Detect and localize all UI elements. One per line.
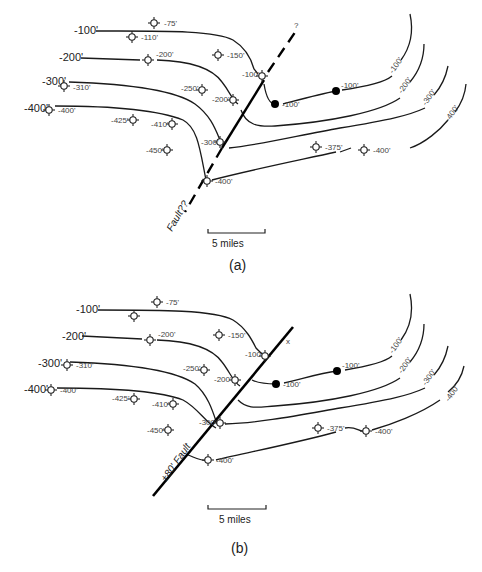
- panel-a: ? Fault?? -100' -200' -300' -400' -100' …: [24, 14, 466, 273]
- well-a-label: -75': [164, 19, 178, 28]
- fault-a-label: Fault??: [164, 198, 190, 233]
- dry-hole-b-label: -100': [283, 380, 301, 389]
- contour-a-right-label-300: -300': [420, 87, 438, 107]
- contour-a-left-label-100: -100': [74, 24, 98, 36]
- well-symbol-icon: [126, 31, 138, 43]
- contour-b-right-label-400: -400': [443, 383, 461, 403]
- contour-b-400-west: [57, 388, 216, 428]
- contour-b-left-label-300: -300': [38, 357, 62, 369]
- well-symbol-icon: [127, 114, 139, 126]
- well-symbol-icon: [202, 454, 214, 466]
- well-symbol-icon: [61, 359, 73, 371]
- scale-bar-b: [208, 505, 266, 509]
- dry-hole-dot-icon: [332, 87, 340, 95]
- fault-a-end-marker: ?: [294, 21, 299, 30]
- well-a-label: -100': [242, 70, 260, 79]
- well-symbol-icon: [144, 334, 156, 346]
- well-a-label: -450': [146, 146, 164, 155]
- fault-b-end-marker: x: [286, 337, 290, 346]
- panel-a-caption: (a): [229, 257, 246, 273]
- well-symbol-icon: [128, 310, 140, 322]
- contour-b-left-label-200: -200': [62, 330, 86, 342]
- well-b-label: -400': [216, 456, 234, 465]
- contour-b-left-label-100: -100': [76, 303, 100, 315]
- well-b-label: -400': [375, 427, 393, 436]
- well-symbol-icon: [142, 54, 154, 66]
- fault-a-dashed-segment-ne: [268, 28, 298, 72]
- well-symbol-icon: [312, 422, 324, 434]
- well-symbol-icon: [360, 425, 372, 437]
- well-symbol-icon: [128, 393, 140, 405]
- well-symbol-icon: [213, 329, 225, 341]
- dry-hole-a-label: -100': [282, 100, 300, 109]
- well-b-label: -100': [245, 350, 263, 359]
- well-a-label: -150': [227, 51, 245, 60]
- structure-contour-figure: ? Fault?? -100' -200' -300' -400' -100' …: [0, 0, 482, 572]
- dry-hole-dot-icon: [272, 380, 280, 388]
- well-a-label: -400': [58, 106, 76, 115]
- well-symbol-icon: [151, 296, 163, 308]
- dry-hole-a-label: -100': [341, 81, 359, 90]
- well-b-label: -200': [158, 330, 176, 339]
- well-symbol-icon: [212, 49, 224, 61]
- well-a-label: -400': [373, 146, 391, 155]
- contour-a-400-west: [55, 106, 206, 180]
- well-b-label: -425': [112, 394, 130, 403]
- well-b-label: -200': [214, 375, 232, 384]
- well-a-label: -200': [212, 95, 230, 104]
- scale-bar-a: [208, 229, 265, 233]
- well-b-label: -250': [183, 364, 201, 373]
- well-a-label: -310': [73, 83, 91, 92]
- well-symbol-icon: [310, 141, 322, 153]
- well-b-label: -310': [76, 361, 94, 370]
- well-a-label: -375': [325, 143, 343, 152]
- fault-b-label: ±80' Fault: [159, 440, 194, 483]
- panel-b: x ±80' Fault -100' -200' -300' -400' -10…: [24, 294, 464, 556]
- well-a-label: -200': [156, 50, 174, 59]
- well-b-label: -75': [166, 298, 180, 307]
- panel-b-caption: (b): [231, 540, 248, 556]
- contour-b-100-east: [252, 294, 411, 384]
- well-b-label: -410': [152, 400, 170, 409]
- well-symbol-icon: [358, 144, 370, 156]
- contour-b-right-label-300: -300': [420, 367, 438, 387]
- well-a-label: -425': [111, 116, 129, 125]
- contour-b-left-label-400: -400': [24, 383, 48, 395]
- well-b-label: -300': [199, 418, 217, 427]
- well-b-label: -150': [228, 331, 246, 340]
- scale-label-b: 5 miles: [219, 514, 251, 525]
- dry-hole-dot-icon: [333, 367, 341, 375]
- contour-a-left-label-400: -400': [24, 102, 48, 114]
- well-symbol-icon: [201, 175, 213, 187]
- dry-hole-dot-icon: [271, 100, 279, 108]
- contour-b-right-label-200: -200': [396, 355, 414, 375]
- dry-hole-b-label: -100': [342, 361, 360, 370]
- well-a-label: -300': [201, 138, 219, 147]
- well-b-label: -450': [147, 426, 165, 435]
- scale-label-a: 5 miles: [212, 238, 244, 249]
- well-b-label: -400': [60, 386, 78, 395]
- well-b-label: -375': [327, 424, 345, 433]
- contour-a-right-label-200: -200': [396, 75, 414, 95]
- well-symbol-icon: [148, 17, 160, 29]
- well-a-label: -110': [141, 33, 158, 42]
- contour-a-left-label-200: -200': [59, 51, 83, 63]
- well-a-label: -250': [181, 84, 199, 93]
- well-a-label: -400': [215, 177, 233, 186]
- well-a-label: -410': [151, 120, 169, 129]
